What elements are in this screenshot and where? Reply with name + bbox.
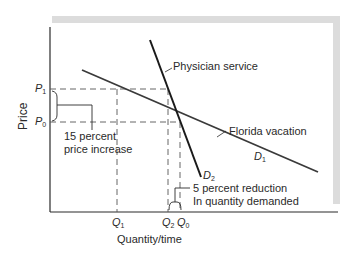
label-physician-service: Physician service (173, 60, 258, 72)
frame-shadow-top (52, 16, 340, 23)
label-florida-vacation: Florida vacation (229, 125, 307, 137)
annotation-price-line1: 15 percent (64, 130, 116, 142)
annotation-price-line2: price increase (64, 143, 132, 155)
quantity-bracket (169, 202, 181, 210)
tick-q2: Q2 (162, 216, 174, 232)
tick-q0: Q0 (177, 216, 189, 232)
physician-leader (165, 68, 172, 72)
price-bracket-leader (57, 105, 92, 130)
florida-leader (217, 131, 226, 137)
frame-shadow-right (333, 16, 340, 204)
price-bracket (52, 91, 57, 121)
annotation-quantity-line1: 5 percent reduction (193, 182, 287, 194)
tick-p0: P0 (35, 115, 46, 131)
tick-q1: Q1 (112, 216, 124, 232)
y-axis-label: Price (17, 103, 29, 130)
x-axis-label: Quantity/time (117, 233, 182, 245)
annotation-quantity-line2: In quantity demanded (193, 195, 299, 207)
label-d1: D1 (254, 150, 266, 166)
quantity-bracket-leader (175, 188, 190, 202)
tick-p1: P1 (35, 82, 46, 98)
